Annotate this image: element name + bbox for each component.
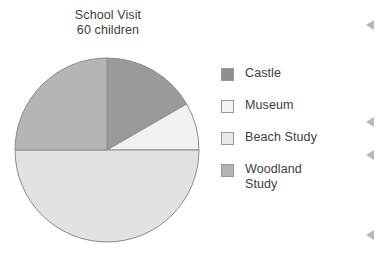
left-arrow-icon	[366, 230, 374, 240]
left-arrow-icon	[366, 117, 374, 127]
pie-slice	[15, 150, 199, 242]
pie-slice-group	[15, 58, 199, 242]
legend-item: WoodlandStudy	[221, 162, 361, 192]
chart-title-line-2: 60 children	[38, 23, 178, 38]
legend-item: Museum	[221, 98, 361, 113]
legend-swatch-icon	[221, 132, 234, 145]
pie-chart-figure: School Visit 60 children CastleMuseumBea…	[0, 0, 377, 259]
legend-swatch-icon	[221, 164, 234, 177]
pie-slice	[15, 58, 107, 150]
chart-title-line-1: School Visit	[38, 8, 178, 23]
legend-item-label: Beach Study	[245, 130, 317, 145]
pie-plot-area	[14, 56, 202, 246]
pie-svg	[14, 56, 202, 246]
legend-item-label: Museum	[245, 98, 294, 113]
legend-swatch-icon	[221, 100, 234, 113]
legend-item: Beach Study	[221, 130, 361, 145]
left-arrow-icon	[366, 20, 374, 30]
chart-title: School Visit 60 children	[38, 8, 178, 38]
legend-item: Castle	[221, 66, 361, 81]
chart-legend: CastleMuseumBeach StudyWoodlandStudy	[221, 66, 361, 209]
legend-item-label: Castle	[245, 66, 281, 81]
legend-item-label-line-2: Study	[245, 177, 302, 192]
legend-item-label: WoodlandStudy	[245, 162, 302, 192]
legend-swatch-icon	[221, 68, 234, 81]
left-arrow-icon	[366, 150, 374, 160]
